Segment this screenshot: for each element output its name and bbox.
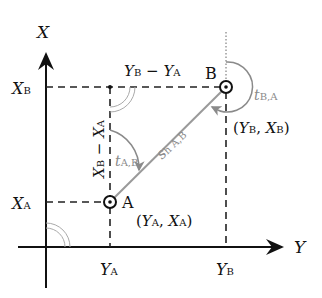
point-b-coordinates: (YB, XB) (233, 119, 290, 137)
xa-tick-label: XA (10, 194, 31, 213)
bearing-ba-label: tB,A (254, 87, 278, 103)
xb-tick-label: XB (10, 79, 31, 98)
ya-tick-label: YA (100, 260, 119, 279)
yb-tick-label: YB (216, 260, 234, 279)
right-angle-arc-corner (110, 87, 135, 112)
delta-x-label: XB − XA (90, 119, 108, 179)
delta-y-label: YB − YA (124, 62, 181, 80)
geodetic-coordinate-diagram: X Y XB XA YA YB A B (YA, XA) (YB, XB) YB… (0, 0, 322, 298)
bearing-ab-label: tA,B (115, 153, 138, 169)
point-a-marker (104, 196, 116, 208)
corner-dot (108, 85, 112, 89)
point-a-label: A (121, 193, 134, 212)
distance-label: sh A,B (152, 126, 190, 163)
point-b-label: B (205, 64, 217, 83)
point-b-marker (220, 81, 232, 93)
right-angle-arc-origin (46, 223, 70, 247)
x-axis-label: X (35, 22, 50, 42)
point-a-coordinates: (YA, XA) (136, 212, 192, 230)
y-axis-label: Y (294, 237, 307, 257)
